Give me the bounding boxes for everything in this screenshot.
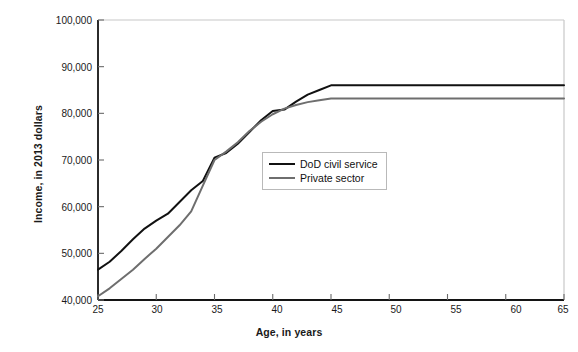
income-by-age-line-chart: Income, in 2013 dollars 40,000 50,000 60… [0,0,578,352]
legend-color-swatch [269,177,295,179]
legend-color-swatch [269,163,295,165]
legend-label: Private sector [300,172,364,184]
x-axis-title: Age, in years [0,326,578,338]
legend-label: DoD civil service [300,158,378,170]
legend-item-private: Private sector [269,171,378,185]
chart-legend: DoD civil service Private sector [262,152,387,190]
series-line-private-sector [98,98,564,296]
data-series-layer [98,85,564,296]
legend-item-dod: DoD civil service [269,157,378,171]
